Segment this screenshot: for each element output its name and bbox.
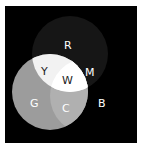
- venn-diagram: R M Y W G C B: [0, 0, 141, 151]
- label-c: C: [62, 102, 70, 115]
- label-b: B: [98, 97, 106, 110]
- label-w: W: [62, 74, 73, 87]
- label-m: M: [85, 66, 95, 79]
- label-r: R: [64, 39, 72, 52]
- label-y: Y: [40, 65, 48, 78]
- label-g: G: [30, 97, 39, 110]
